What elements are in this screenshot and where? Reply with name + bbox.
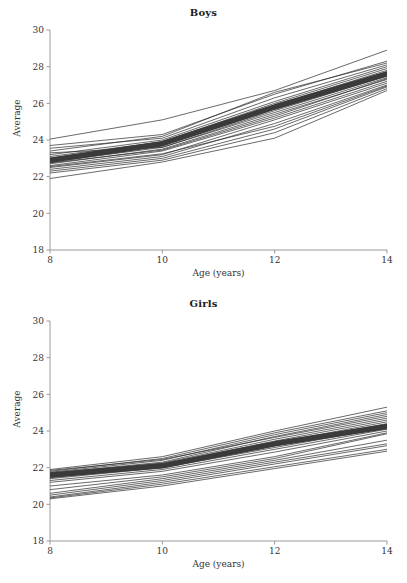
y-tick-label: 30 bbox=[33, 25, 45, 35]
y-tick-label: 20 bbox=[33, 209, 45, 219]
y-tick-label: 28 bbox=[33, 353, 45, 363]
chart-panel-boys: Boys Average 182022242628308101214 Age (… bbox=[0, 0, 407, 291]
subject-trajectory-line bbox=[50, 411, 387, 472]
mean-trajectory-line bbox=[50, 74, 387, 160]
subject-trajectory-line bbox=[50, 65, 387, 148]
y-tick-label: 26 bbox=[33, 99, 45, 109]
y-tick-label: 30 bbox=[33, 316, 45, 326]
chart-panel-girls: Girls Average 182022242628308101214 Age … bbox=[0, 291, 407, 582]
subject-trajectory-line bbox=[50, 413, 387, 473]
x-axis-label-boys: Age (years) bbox=[50, 268, 387, 278]
x-tick-label: 14 bbox=[381, 255, 393, 265]
y-tick-label: 24 bbox=[33, 135, 45, 145]
y-tick-label: 24 bbox=[33, 426, 45, 436]
plot-area-boys: 182022242628308101214 bbox=[0, 0, 407, 291]
y-tick-label: 22 bbox=[33, 172, 44, 182]
x-tick-label: 10 bbox=[157, 546, 169, 556]
subject-trajectory-line bbox=[50, 89, 387, 173]
y-tick-label: 26 bbox=[33, 390, 45, 400]
y-tick-label: 20 bbox=[33, 500, 45, 510]
figure-page: Boys Average 182022242628308101214 Age (… bbox=[0, 0, 407, 583]
y-tick-label: 28 bbox=[33, 62, 45, 72]
x-tick-label: 12 bbox=[269, 546, 280, 556]
x-tick-label: 10 bbox=[157, 255, 169, 265]
plot-area-girls: 182022242628308101214 bbox=[0, 291, 407, 582]
subject-trajectory-line bbox=[50, 69, 387, 159]
y-tick-label: 22 bbox=[33, 463, 44, 473]
y-tick-label: 18 bbox=[33, 536, 45, 546]
x-tick-label: 12 bbox=[269, 255, 280, 265]
x-tick-label: 14 bbox=[381, 546, 393, 556]
y-tick-label: 18 bbox=[33, 245, 45, 255]
subject-trajectory-line bbox=[50, 63, 387, 151]
x-tick-label: 8 bbox=[47, 255, 53, 265]
x-tick-label: 8 bbox=[47, 546, 53, 556]
x-axis-label-girls: Age (years) bbox=[50, 559, 387, 569]
